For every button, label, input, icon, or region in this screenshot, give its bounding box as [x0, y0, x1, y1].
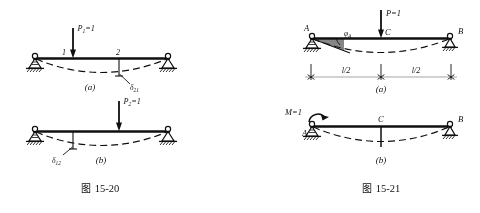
figure-caption-left: 图15-20 — [81, 183, 120, 194]
load-label-p1: P1=1 — [77, 24, 95, 34]
dimension-label-right: l/2 — [412, 66, 421, 75]
node-label-b: B — [458, 114, 464, 124]
dimension-label-left: l/2 — [342, 66, 351, 75]
node-label-b: B — [458, 26, 464, 36]
panel-label-b: (b) — [376, 155, 387, 165]
node-label-c: C — [385, 27, 391, 37]
figure-sheet: P1=1 1 2 δ21 (a) — [0, 0, 480, 213]
point-label-1: 1 — [62, 48, 66, 57]
node-label-a: A — [303, 23, 310, 33]
node-label-c: C — [378, 114, 384, 124]
panel-label-b: (b) — [96, 155, 107, 165]
page-background — [0, 0, 480, 213]
load-label-p: P=1 — [385, 9, 401, 18]
point-label-2: 2 — [116, 48, 120, 57]
load-label-p2: P2=1 — [123, 97, 141, 107]
figure-caption-right: 图15-21 — [362, 183, 401, 194]
node-label-a: A — [301, 128, 308, 138]
panel-label-a: (a) — [85, 82, 96, 92]
panel-label-a: (a) — [376, 84, 387, 94]
load-label-m: M=1 — [284, 108, 302, 117]
